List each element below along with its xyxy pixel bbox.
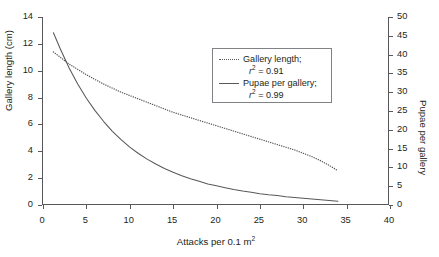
x-axis-tick — [130, 205, 131, 209]
legend-label-gallery-length: Gallery length; r2 = 0.91 — [243, 54, 302, 77]
legend-item-gallery-length: Gallery length; r2 = 0.91 — [219, 54, 325, 77]
legend-r-squared-gallery-length: r2 = 0.91 — [243, 66, 302, 78]
x-axis-tick — [390, 205, 391, 209]
x-axis-tick-label: 15 — [167, 216, 177, 225]
x-axis-tick — [303, 205, 304, 209]
x-axis-title-superscript: 2 — [251, 235, 255, 242]
legend-item-pupae-per-gallery: Pupae per gallery; r2 = 0.99 — [219, 78, 325, 101]
y-axis-right-tick-label: 45 — [397, 31, 407, 40]
y-axis-right-tick-label: 0 — [397, 200, 402, 209]
y-axis-left-tick-label: 6 — [0, 120, 33, 129]
y-axis-right-tick — [389, 36, 393, 37]
y-axis-left-tick — [38, 44, 42, 45]
y-axis-right-tick — [389, 130, 393, 131]
y-axis-left-tick — [38, 71, 42, 72]
y-axis-left-tick-label: 14 — [0, 12, 33, 21]
legend-r-exponent: 2 — [252, 87, 256, 94]
x-axis-tick-label: 30 — [297, 216, 307, 225]
legend-r-squared-pupae-per-gallery: r2 = 0.99 — [243, 90, 317, 102]
x-axis-tick — [86, 205, 87, 209]
x-axis-tick — [217, 205, 218, 209]
plot-area — [42, 17, 389, 205]
y-axis-right-tick-label: 5 — [397, 182, 402, 191]
y-axis-right-tick-label: 10 — [397, 163, 407, 172]
chart-figure: 02468101214 05101520253035404550 0510152… — [0, 0, 439, 257]
curve-layer — [43, 17, 390, 205]
y-axis-right-tick — [389, 92, 393, 93]
y-axis-right-tick-label: 50 — [397, 12, 407, 21]
y-axis-right-tick-label: 30 — [397, 88, 407, 97]
y-axis-left-tick — [38, 17, 42, 18]
y-axis-left-tick-label: 4 — [0, 147, 33, 156]
y-axis-right-tick — [389, 73, 393, 74]
y-axis-right-tick-label: 15 — [397, 144, 407, 153]
y-axis-right-tick — [389, 186, 393, 187]
x-axis-tick-label: 25 — [254, 216, 264, 225]
x-axis-title: Attacks per 0.1 m2 — [177, 236, 255, 247]
y-axis-right-title: Pupae per gallery — [418, 100, 429, 175]
y-axis-left-tick-label: 0 — [0, 200, 33, 209]
legend-label-pupae-per-gallery: Pupae per gallery; r2 = 0.99 — [243, 78, 317, 101]
x-axis-tick-label: 40 — [384, 216, 394, 225]
y-axis-right-tick — [389, 167, 393, 168]
x-axis-tick-label: 10 — [124, 216, 134, 225]
y-axis-right-tick — [389, 149, 393, 150]
y-axis-left-tick — [38, 124, 42, 125]
y-axis-right-tick-label: 40 — [397, 50, 407, 59]
y-axis-right-tick — [389, 111, 393, 112]
legend-swatch-dotted-icon — [219, 54, 239, 65]
x-axis-tick-label: 35 — [340, 216, 350, 225]
x-axis-tick-label: 20 — [210, 216, 220, 225]
y-axis-left-tick — [38, 205, 42, 206]
y-axis-right-tick-label: 25 — [397, 106, 407, 115]
y-axis-left-tick — [38, 178, 42, 179]
x-axis-tick-label: 5 — [83, 216, 88, 225]
x-axis-tick — [260, 205, 261, 209]
legend-swatch-solid-icon — [219, 78, 239, 89]
legend-r-value: = 0.99 — [258, 90, 284, 100]
x-axis-tick — [43, 205, 44, 209]
x-axis-tick — [173, 205, 174, 209]
y-axis-left-tick — [38, 98, 42, 99]
y-axis-left-tick — [38, 151, 42, 152]
x-axis-tick — [347, 205, 348, 209]
y-axis-left-title: Gallery length (cm) — [3, 30, 14, 111]
x-axis-tick-label: 0 — [39, 216, 44, 225]
y-axis-right-tick-label: 35 — [397, 69, 407, 78]
chart-legend: Gallery length; r2 = 0.91 Pupae per gall… — [212, 48, 332, 103]
x-axis-title-base: Attacks per 0.1 m — [177, 236, 252, 247]
y-axis-left-tick-label: 2 — [0, 173, 33, 182]
y-axis-right-tick — [389, 55, 393, 56]
legend-r-value: = 0.91 — [258, 66, 284, 76]
legend-r-exponent: 2 — [252, 63, 256, 70]
y-axis-right-tick-label: 20 — [397, 125, 407, 134]
y-axis-right-tick — [389, 17, 393, 18]
